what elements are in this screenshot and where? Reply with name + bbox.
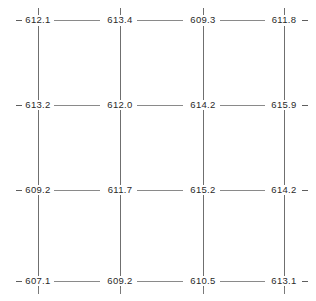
grid-node-value: 612.0 [106, 100, 134, 110]
grid-vertical-line-col3-seg2 [203, 26, 204, 100]
right-edge-dash-row2 [302, 105, 308, 106]
grid-horizontal-line-r1c3 [220, 20, 265, 21]
grid-node-value: 613.4 [106, 15, 134, 25]
left-edge-dash-row4 [16, 281, 22, 282]
left-edge-dash-row1 [16, 20, 22, 21]
grid-vertical-line-col4-seg3 [284, 110, 285, 185]
grid-node-value: 615.2 [189, 185, 217, 195]
grid-node-value: 613.2 [24, 100, 52, 110]
grid-horizontal-line-r4c2 [137, 281, 183, 282]
grid-node-value: 613.1 [270, 276, 298, 286]
grid-horizontal-line-r1c1 [54, 20, 100, 21]
grid-vertical-line-col4-seg2 [284, 26, 285, 100]
grid-node-value: 610.5 [189, 276, 217, 286]
left-edge-dash-row3 [16, 190, 22, 191]
grid-horizontal-line-r3c3 [220, 190, 265, 191]
grid-node-value: 611.7 [106, 185, 134, 195]
grid-node-value: 615.9 [270, 100, 298, 110]
grid-vertical-line-col1-seg2 [38, 26, 39, 100]
left-edge-dash-row2 [16, 105, 22, 106]
grid-vertical-line-col1-seg4 [38, 195, 39, 276]
bottom-tick-col4 [284, 288, 285, 294]
grid-horizontal-line-r3c2 [137, 190, 183, 191]
grid-node-value: 609.2 [24, 185, 52, 195]
grid-vertical-line-col1-seg3 [38, 110, 39, 185]
elevation-grid-diagram: 612.1 613.4 609.3 611.8 613.2 612.0 614.… [0, 0, 316, 301]
grid-vertical-line-col3-seg4 [203, 195, 204, 276]
grid-node-value: 609.3 [189, 15, 217, 25]
right-edge-dash-row4 [302, 281, 308, 282]
bottom-tick-col1 [38, 288, 39, 294]
grid-vertical-line-col4-seg4 [284, 195, 285, 276]
grid-vertical-line-col2-seg4 [120, 195, 121, 276]
grid-node-value: 612.1 [24, 15, 52, 25]
grid-vertical-line-col3-seg3 [203, 110, 204, 185]
grid-vertical-line-col2-seg3 [120, 110, 121, 185]
bottom-tick-col2 [120, 288, 121, 294]
grid-horizontal-line-r4c3 [220, 281, 265, 282]
grid-node-value: 614.2 [270, 185, 298, 195]
grid-node-value: 607.1 [24, 276, 52, 286]
grid-node-value: 609.2 [106, 276, 134, 286]
right-edge-dash-row3 [302, 190, 308, 191]
bottom-tick-col3 [203, 288, 204, 294]
grid-node-value: 611.8 [270, 15, 298, 25]
grid-horizontal-line-r3c1 [54, 190, 100, 191]
grid-horizontal-line-r1c2 [137, 20, 183, 21]
right-edge-dash-row1 [302, 20, 308, 21]
grid-node-value: 614.2 [189, 100, 217, 110]
grid-horizontal-line-r2c2 [137, 105, 183, 106]
grid-horizontal-line-r2c3 [220, 105, 265, 106]
grid-horizontal-line-r2c1 [54, 105, 100, 106]
grid-vertical-line-col2-seg2 [120, 26, 121, 100]
grid-horizontal-line-r4c1 [54, 281, 100, 282]
